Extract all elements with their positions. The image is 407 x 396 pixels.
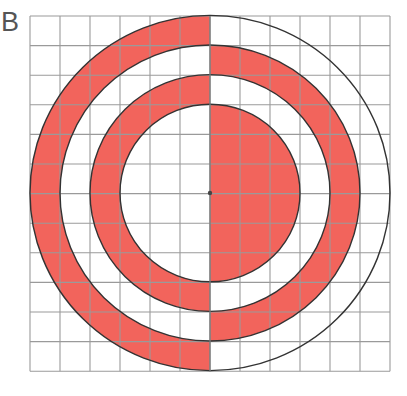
concentric-circles-grid-diagram <box>0 0 407 396</box>
center-point <box>208 191 212 195</box>
filled-region-inner-disk <box>210 104 300 282</box>
filled-half-regions <box>30 15 360 370</box>
